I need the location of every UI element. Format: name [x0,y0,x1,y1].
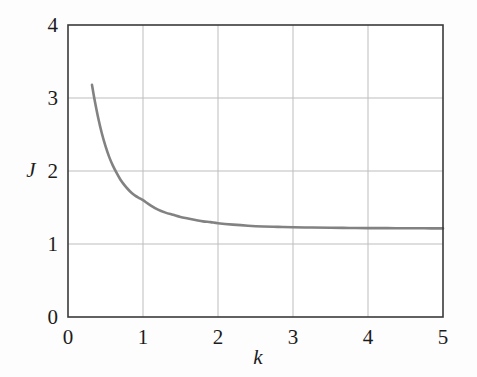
chart-figure: 01234012345 J k [0,0,477,377]
x-tick-label: 2 [213,327,224,348]
x-tick-label: 1 [138,327,149,348]
y-tick-label: 2 [48,161,59,182]
y-tick-label: 0 [48,307,59,328]
x-tick-label: 3 [288,327,299,348]
x-axis-title: k [253,347,262,368]
y-tick-label: 3 [48,88,59,109]
x-tick-label: 5 [438,327,449,348]
plot-canvas [0,0,477,377]
y-axis-title: J [26,160,35,181]
y-tick-label: 4 [48,15,59,36]
y-tick-label: 1 [48,234,59,255]
x-tick-label: 0 [63,327,74,348]
x-tick-label: 4 [363,327,374,348]
